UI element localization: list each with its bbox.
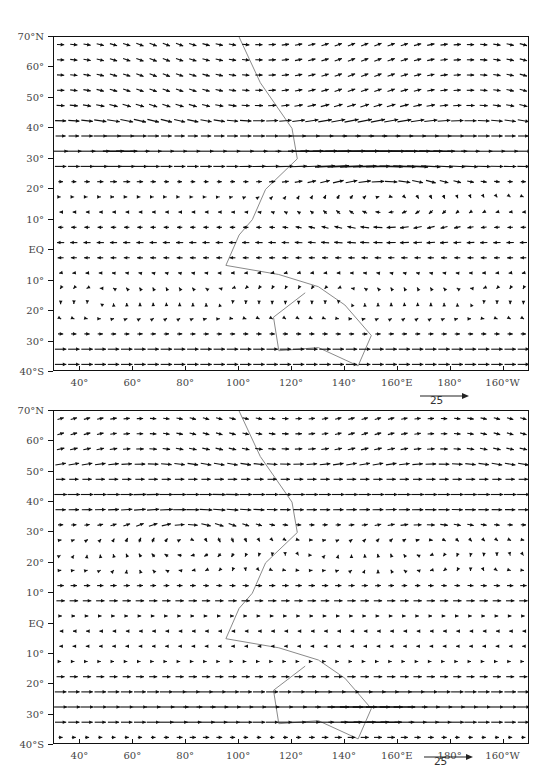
x-tick: [185, 739, 186, 744]
x-tick: [79, 739, 80, 744]
y-tick-label: EQ: [0, 617, 44, 628]
x-tick-label: 140°: [332, 750, 356, 761]
x-tick: [397, 739, 398, 744]
y-tick: [48, 744, 53, 745]
x-tick: [238, 739, 239, 744]
x-tick-label: 160°E: [381, 750, 412, 761]
y-tick-label: 50°: [0, 465, 44, 476]
x-tick: [450, 739, 451, 744]
y-tick: [48, 440, 53, 441]
y-tick: [48, 714, 53, 715]
y-tick-label: 20°: [0, 556, 44, 567]
x-tick: [344, 739, 345, 744]
x-tick-label: 60°: [123, 750, 141, 761]
y-tick-label: 40°: [0, 496, 44, 507]
lower-map-frame: [53, 410, 529, 744]
x-tick-label: 160°W: [485, 750, 519, 761]
x-tick: [291, 739, 292, 744]
y-tick-label: 30°: [0, 526, 44, 537]
y-tick-label: 60°: [0, 435, 44, 446]
y-tick: [48, 531, 53, 532]
y-tick: [48, 501, 53, 502]
x-tick-label: 80°: [176, 750, 194, 761]
y-tick: [48, 410, 53, 411]
y-tick-label: 70°N: [0, 405, 44, 416]
lower-vector-field: [54, 411, 529, 744]
y-tick-label: 20°: [0, 678, 44, 689]
lower-panel: 70°N60°50°40°30°20°10°EQ10°20°30°40°S 40…: [0, 0, 552, 776]
y-tick-label: 40°S: [0, 739, 44, 750]
y-tick: [48, 562, 53, 563]
x-tick-label: 100°: [226, 750, 250, 761]
x-tick-label: 120°: [279, 750, 303, 761]
x-tick: [503, 739, 504, 744]
y-tick: [48, 623, 53, 624]
lower-reference-vector: 25: [424, 746, 474, 765]
reference-vector-label: 25: [434, 755, 447, 768]
y-tick-label: 10°: [0, 587, 44, 598]
y-tick: [48, 471, 53, 472]
coastline: [226, 411, 371, 739]
y-tick: [48, 653, 53, 654]
x-tick-label: 40°: [71, 750, 89, 761]
y-tick-label: 30°: [0, 708, 44, 719]
x-tick: [132, 739, 133, 744]
y-tick: [48, 683, 53, 684]
y-tick: [48, 592, 53, 593]
y-tick-label: 10°: [0, 647, 44, 658]
reference-arrow-icon: [424, 753, 474, 761]
